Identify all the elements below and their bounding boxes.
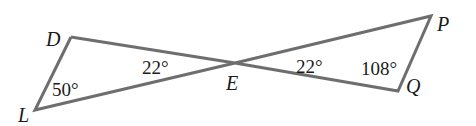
angle-label-peq: 22°	[296, 56, 323, 77]
angle-label-del: 22°	[142, 57, 169, 78]
point-label-e: E	[225, 72, 238, 94]
angle-label-l: 50°	[52, 79, 79, 100]
point-label-d: D	[45, 28, 61, 50]
point-label-q: Q	[406, 75, 421, 97]
geometry-diagram: D L E P Q 50° 22° 22° 108°	[0, 0, 476, 126]
angle-label-q: 108°	[361, 58, 397, 79]
point-label-l: L	[17, 104, 29, 126]
triangle-epq	[235, 16, 431, 91]
point-label-p: P	[436, 13, 449, 35]
